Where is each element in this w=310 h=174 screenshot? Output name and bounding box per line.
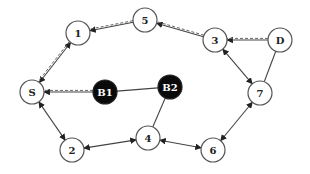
node-4: 4 <box>136 126 160 150</box>
edge-1-S <box>39 42 70 82</box>
edge-5-1 <box>89 21 132 29</box>
node-5: 5 <box>133 8 157 32</box>
node-1: 1 <box>66 21 90 45</box>
nodes-layer: S153D7642B1B2 <box>20 8 292 162</box>
node-label: 2 <box>69 145 76 156</box>
node-label: 6 <box>210 145 217 156</box>
node-B1: B1 <box>93 80 117 104</box>
edge-3-5 <box>157 22 204 35</box>
edge-5-1 <box>90 22 133 30</box>
node-7: 7 <box>248 81 272 105</box>
node-label: 7 <box>257 88 264 99</box>
node-6: 6 <box>201 138 225 162</box>
edge-6-7 <box>221 102 253 140</box>
node-label: B2 <box>162 82 177 93</box>
node-label: D <box>276 35 285 46</box>
node-label: 5 <box>142 15 149 26</box>
node-S: S <box>20 80 44 104</box>
edge-3-5 <box>157 23 204 36</box>
edge-1-S <box>38 41 69 81</box>
node-label: 3 <box>212 35 219 46</box>
edge-B1-B2 <box>117 88 158 91</box>
node-label: B1 <box>97 87 112 98</box>
network-diagram: S153D7642B1B2 <box>0 0 310 174</box>
edge-3-7 <box>223 49 252 84</box>
edge-B2-4 <box>153 98 165 127</box>
edge-2-4 <box>84 140 136 148</box>
edge-S-2 <box>39 102 65 140</box>
node-3: 3 <box>203 28 227 52</box>
node-2: 2 <box>60 138 84 162</box>
edge-4-6 <box>160 140 201 148</box>
node-label: S <box>28 87 35 98</box>
node-label: 1 <box>75 28 82 39</box>
edge-D-7 <box>264 51 276 82</box>
node-B2: B2 <box>158 75 182 99</box>
node-label: 4 <box>145 133 152 144</box>
node-D: D <box>268 28 292 52</box>
